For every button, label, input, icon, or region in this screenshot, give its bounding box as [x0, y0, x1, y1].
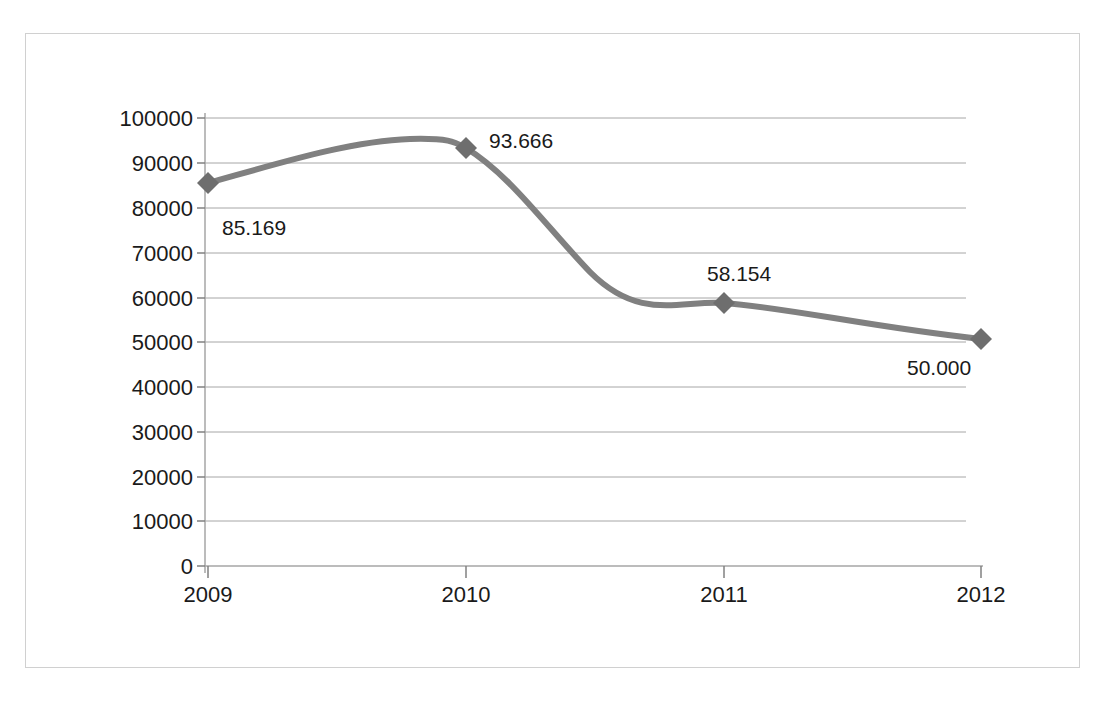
y-tick-label-90000: 90000: [40, 151, 193, 177]
data-label-2009: 85.169: [222, 216, 286, 240]
data-label-2012: 50.000: [907, 356, 971, 380]
x-axis-ticks: [208, 566, 981, 578]
x-tick-label-2011: 2011: [664, 582, 784, 608]
series-markers: [197, 137, 992, 350]
data-label-2011: 58.154: [707, 262, 771, 286]
x-tick-label-2012: 2012: [921, 582, 1041, 608]
y-tick-label-80000: 80000: [40, 196, 193, 222]
y-tick-label-50000: 50000: [40, 330, 193, 356]
x-tick-label-2009: 2009: [148, 582, 268, 608]
y-tick-label-10000: 10000: [40, 509, 193, 535]
y-tick-label-100000: 100000: [40, 106, 193, 132]
y-tick-label-40000: 40000: [40, 375, 193, 401]
y-tick-label-30000: 30000: [40, 420, 193, 446]
x-tick-label-2010: 2010: [406, 582, 526, 608]
data-label-2010: 93.666: [489, 129, 553, 153]
series-line: [208, 139, 981, 339]
y-tick-label-60000: 60000: [40, 286, 193, 312]
y-tick-label-20000: 20000: [40, 465, 193, 491]
y-tick-label-0: 0: [40, 554, 193, 580]
y-tick-label-70000: 70000: [40, 241, 193, 267]
